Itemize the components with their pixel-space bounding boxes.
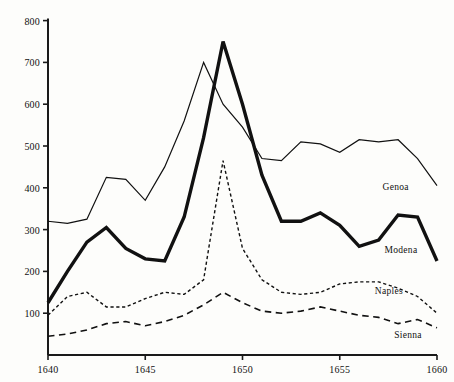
x-tick-label: 1645	[135, 364, 156, 375]
series-line-genoa	[48, 62, 437, 223]
y-tick-label: 600	[0, 99, 40, 110]
y-tick-label: 400	[0, 182, 40, 193]
y-tick-label: 500	[0, 141, 40, 152]
series-line-modena	[48, 42, 437, 303]
y-tick-label: 800	[0, 15, 40, 26]
series-label-sienna: Sienna	[394, 330, 422, 340]
axes-group	[43, 19, 437, 360]
y-tick-label: 200	[0, 266, 40, 277]
chart-container: 100200300400500600700800 164016451650165…	[0, 0, 454, 382]
series-label-modena: Modena	[384, 245, 417, 255]
series-label-naples: Naples	[375, 286, 403, 296]
y-tick-label: 700	[0, 57, 40, 68]
series-line-sienna	[48, 292, 437, 336]
x-tick-label: 1640	[38, 364, 59, 375]
x-tick-label: 1660	[427, 364, 448, 375]
series-label-genoa: Genoa	[383, 182, 409, 192]
x-tick-label: 1655	[329, 364, 350, 375]
x-tick-label: 1650	[232, 364, 253, 375]
y-tick-label: 300	[0, 224, 40, 235]
y-tick-label: 100	[0, 308, 40, 319]
